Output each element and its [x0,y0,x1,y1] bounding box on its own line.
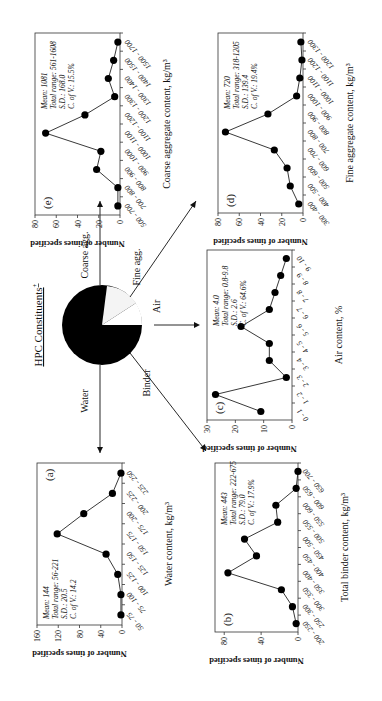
x-tick-label: 7 - 8 [294,288,310,305]
data-point [297,38,304,45]
y-tick-label: 20 [231,425,240,433]
data-point [293,620,300,627]
data-point [289,603,296,610]
panel-label: (e) [41,196,54,209]
data-point [277,272,284,279]
pie-label-binder: Binder [141,369,152,397]
figure-title: HPC Constituents+ [31,283,44,366]
data-point [114,571,121,578]
data-point [102,551,109,558]
data-point [241,535,248,542]
plot-frame [215,463,298,632]
panel-label: (b) [221,613,234,626]
data-point [295,200,302,207]
data-point [117,470,124,477]
data-point [109,490,116,497]
panel-e: 020406080Number of times specified500 - … [30,33,172,249]
data-point [117,591,124,598]
data-point [54,530,61,537]
data-point [283,164,290,171]
stat-line: S.D.: 168.0 [58,75,67,109]
stat-line: Mean: 144 [42,586,51,620]
arrowhead-water-icon [97,447,103,453]
y-axis-label: Number of times specified [202,444,297,454]
data-point [222,128,229,135]
data-point [253,552,260,559]
stat-line: C. of V.: 14.2 [69,579,78,619]
y-tick-label: 60 [52,220,61,228]
stat-line: C. of V.: 17.9% [247,479,256,525]
stat-line: Mean: 720 [223,76,232,110]
data-point [42,129,49,136]
panel-label: (c) [213,401,226,414]
x-tick-label: 3 - 4 [294,356,311,373]
data-point [114,184,121,191]
y-tick-label: 0 [299,218,308,222]
y-tick-label: 160 [33,630,42,642]
x-tick-label: 6 - 7 [294,305,310,322]
y-tick-label: 0 [294,637,303,641]
panel-b: 04080Number of times specified200 - 2502… [209,461,350,666]
stat-line: Total range: 561-1608 [49,41,58,109]
pie-label-water: Water [79,389,90,413]
stat-line: C. of V.: 15.5% [67,63,76,109]
y-tick-label: 80 [76,630,85,638]
stat-line: Total range: 318-1205 [232,41,241,109]
data-point [278,586,285,593]
panel-label: (d) [224,194,237,207]
figure-canvas: HPC Constituents+ Water Coarse agg. Fine… [0,0,382,701]
data-point [105,75,112,82]
data-point [274,519,281,526]
x-tick-label: 4 - 5 [294,339,310,356]
stat-line: Mean: 4.0 [212,295,221,327]
stat-line: Total range: 222-675 [229,461,238,525]
y-axis-label: Number of times specified [32,649,127,659]
stat-line: Mean: 443 [220,492,229,526]
stat-line: S.D.: 20.5 [60,588,69,619]
y-axis-label: Number of times specified [209,656,304,666]
data-point [266,357,273,364]
y-tick-label: 0 [116,220,125,224]
y-tick-label: 20 [278,218,287,226]
data-point [111,93,118,100]
stat-line: S.D.: 139.4 [241,75,250,109]
data-point [110,57,117,64]
y-tick-label: 40 [257,637,266,645]
y-tick-label: 40 [74,220,83,228]
data-point [271,289,278,296]
y-tick-label: 60 [235,218,244,226]
y-tick-label: 80 [31,220,40,228]
y-axis-label: Number of times specified [30,239,125,249]
y-tick-label: 80 [220,637,229,645]
stat-line: Total range: 0.8-9.8 [221,266,230,326]
data-point [80,510,87,517]
y-tick-label: 120 [54,630,63,642]
data-point [117,611,124,618]
pie-label-air: Air [151,299,162,313]
hpc-constituents-figure: HPC Constituents+ Water Coarse agg. Fine… [0,0,382,701]
data-point [293,485,300,492]
y-axis-label: Number of times specified [213,237,308,247]
y-tick-label: 30 [203,425,212,433]
data-point [266,340,273,347]
x-tick-label: 8 - 9 [294,271,310,288]
x-tick-label: 9 - 10 [294,254,312,273]
data-point [114,202,121,209]
plot-frame [35,33,120,215]
arrowhead-fine-icon [190,201,196,208]
x-tick-label: 5 - 6 [294,322,310,339]
data-point [257,408,264,415]
stat-line: S.D.: 2.6 [230,299,239,326]
data-point [294,468,301,475]
y-tick-label: 40 [97,630,106,638]
x-axis-label: Water content, kg/m³ [163,502,174,586]
data-point [114,38,121,45]
data-point [298,56,305,63]
stat-line: C. of V.: 19.4% [250,63,259,109]
stat-line: S.D.: 79.0 [238,494,247,525]
panel-c: 0102030Number of times specified0 - 11 -… [202,250,344,454]
pie-label-coarse: Coarse agg. [79,231,90,278]
data-point [283,374,290,381]
x-axis-label: Coarse aggregate content, kg/m³ [161,59,172,189]
data-point [97,148,104,155]
